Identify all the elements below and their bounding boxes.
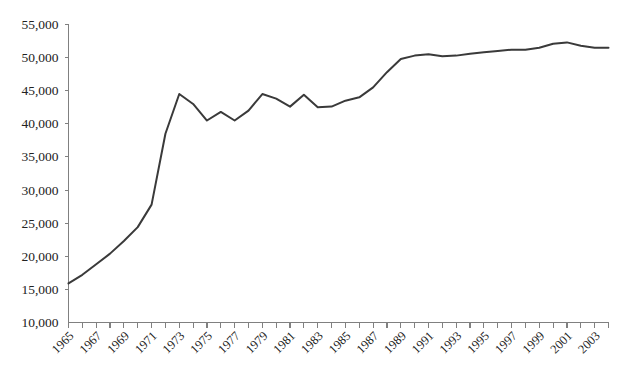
- y-axis-tick-label: 35,000: [21, 149, 58, 164]
- x-axis-tick-label: 1985: [326, 329, 354, 357]
- x-axis-tick-label: 1979: [243, 329, 271, 357]
- x-axis-tick-label: 1999: [520, 329, 548, 357]
- x-axis-tick-label: 1971: [132, 329, 160, 357]
- x-axis-tick-label: 1967: [77, 329, 105, 357]
- y-axis-tick-label: 55,000: [21, 17, 58, 32]
- y-axis-tick-label: 25,000: [21, 216, 58, 231]
- x-axis-tick-marks: [69, 323, 609, 328]
- x-axis-tick-label: 1977: [215, 329, 243, 357]
- y-axis-tick-label: 30,000: [21, 183, 58, 198]
- x-axis-tick-label: 2003: [575, 329, 603, 357]
- x-axis-tick-label: 1965: [49, 329, 77, 357]
- x-axis-tick-label: 1991: [409, 329, 437, 357]
- y-axis-tick-label: 15,000: [21, 282, 58, 297]
- x-axis-tick-label: 1989: [381, 329, 409, 357]
- data-series-line: [69, 42, 609, 283]
- x-axis-tick-label: 1969: [104, 329, 132, 357]
- y-axis-tick-label: 20,000: [21, 249, 58, 264]
- y-axis-tick-label: 45,000: [21, 83, 58, 98]
- x-axis-tick-labels: 1965196719691971197319751977197919811983…: [49, 329, 603, 357]
- x-axis-tick-label: 1993: [437, 329, 465, 357]
- y-axis-tick-label: 40,000: [21, 116, 58, 131]
- x-axis-tick-label: 1983: [298, 329, 326, 357]
- y-axis-tick-label: 10,000: [21, 315, 58, 330]
- y-axis-tick-labels: 10,00015,00020,00025,00030,00035,00040,0…: [21, 17, 58, 330]
- x-axis-tick-label: 1973: [160, 329, 188, 357]
- x-axis-tick-label: 1975: [188, 329, 216, 357]
- x-axis-tick-label: 1997: [492, 329, 520, 357]
- x-axis-tick-label: 2001: [548, 329, 576, 357]
- chart-canvas: 10,00015,00020,00025,00030,00035,00040,0…: [0, 0, 618, 381]
- line-chart: 10,00015,00020,00025,00030,00035,00040,0…: [0, 0, 618, 381]
- x-axis-tick-label: 1987: [354, 329, 382, 357]
- x-axis-tick-label: 1995: [464, 329, 492, 357]
- y-axis-tick-label: 50,000: [21, 50, 58, 65]
- x-axis-tick-label: 1981: [271, 329, 299, 357]
